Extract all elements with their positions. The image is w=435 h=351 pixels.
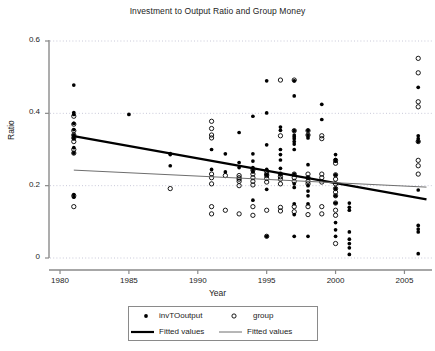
x-tick-label-4: 2000 xyxy=(316,276,356,285)
fitted-line-group xyxy=(74,170,427,187)
data-point-invtooutput xyxy=(251,170,255,174)
data-point-invtooutput xyxy=(292,186,296,190)
data-point-invtooutput xyxy=(72,146,76,150)
data-point-invtooutput xyxy=(224,170,228,174)
data-point-invtooutput xyxy=(347,230,351,234)
data-point-group xyxy=(168,186,172,190)
data-point-invtooutput xyxy=(292,182,296,186)
data-point-invtooutput xyxy=(279,166,283,170)
fitted-line-invtooutput xyxy=(74,136,427,199)
data-point-group xyxy=(209,204,213,208)
data-point-invtooutput xyxy=(306,163,310,167)
data-point-invtooutput xyxy=(279,158,283,162)
gridlines xyxy=(50,41,432,258)
data-point-invtooutput xyxy=(72,83,76,87)
legend-row-markers: invTOoutput group xyxy=(129,308,319,324)
data-point-invtooutput xyxy=(251,152,255,156)
data-point-invtooutput xyxy=(334,194,338,198)
legend-label-group: group xyxy=(253,308,273,324)
data-point-group xyxy=(278,78,282,82)
data-point-group xyxy=(333,177,337,181)
data-point-invtooutput xyxy=(251,159,255,163)
data-point-invtooutput xyxy=(334,159,338,163)
legend-label-invtooutput: invTOoutput xyxy=(159,308,202,324)
legend-thick-line-icon xyxy=(129,324,155,340)
series-points-group xyxy=(72,56,421,245)
data-point-invtooutput xyxy=(168,164,172,168)
data-point-invtooutput xyxy=(292,142,296,146)
data-point-invtooutput xyxy=(347,246,351,250)
data-point-group xyxy=(209,119,213,123)
data-point-group xyxy=(209,136,213,140)
data-point-group xyxy=(333,241,337,245)
data-point-invtooutput xyxy=(334,187,338,191)
data-point-invtooutput xyxy=(306,234,310,238)
y-tick-label-2: 0.4 xyxy=(14,107,40,116)
legend-row-fits: Fitted values Fitted values xyxy=(129,324,319,340)
data-point-invtooutput xyxy=(334,173,338,177)
data-point-invtooutput xyxy=(334,153,338,157)
x-tick-label-0: 1980 xyxy=(40,276,80,285)
legend-label-fitted-values-group: Fitted values xyxy=(247,324,292,340)
data-point-invtooutput xyxy=(72,113,76,117)
data-point-invtooutput xyxy=(416,85,420,89)
y-tick-label-0: 0 xyxy=(14,252,40,261)
legend-filled-circle-icon xyxy=(133,308,159,324)
data-point-invtooutput xyxy=(251,198,255,202)
data-point-group xyxy=(416,172,420,176)
data-point-invtooutput xyxy=(347,237,351,241)
data-point-group xyxy=(416,71,420,75)
data-point-invtooutput xyxy=(265,173,269,177)
data-point-invtooutput xyxy=(347,253,351,257)
data-point-group xyxy=(237,212,241,216)
x-tick-label-3: 1995 xyxy=(247,276,287,285)
data-point-invtooutput xyxy=(292,94,296,98)
data-point-invtooutput xyxy=(279,153,283,157)
data-point-invtooutput xyxy=(265,187,269,191)
data-point-group xyxy=(333,208,337,212)
data-point-invtooutput xyxy=(306,128,310,132)
data-point-invtooutput xyxy=(416,224,420,228)
data-point-group xyxy=(416,164,420,168)
fitted-value-lines xyxy=(74,136,427,199)
data-point-invtooutput xyxy=(347,201,351,205)
data-point-invtooutput xyxy=(279,125,283,129)
data-point-invtooutput xyxy=(306,202,310,206)
data-point-group xyxy=(320,212,324,216)
data-point-invtooutput xyxy=(72,195,76,199)
axis-lines xyxy=(49,40,432,270)
data-point-group xyxy=(416,158,420,162)
data-point-group xyxy=(209,126,213,130)
data-point-group xyxy=(209,212,213,216)
data-point-invtooutput xyxy=(279,128,283,132)
data-point-invtooutput xyxy=(306,194,310,198)
data-point-group xyxy=(306,212,310,216)
data-point-invtooutput xyxy=(224,152,228,156)
data-point-invtooutput xyxy=(265,234,269,238)
data-point-invtooutput xyxy=(347,208,351,212)
data-point-invtooutput xyxy=(292,213,296,217)
data-point-invtooutput xyxy=(265,79,269,83)
data-point-invtooutput xyxy=(72,151,76,155)
data-point-invtooutput xyxy=(416,140,420,144)
x-tick-label-2: 1990 xyxy=(178,276,218,285)
data-point-invtooutput xyxy=(292,79,296,83)
data-point-invtooutput xyxy=(292,129,296,133)
data-point-invtooutput xyxy=(334,221,338,225)
data-point-invtooutput xyxy=(210,168,214,172)
data-point-invtooutput xyxy=(292,148,296,152)
data-point-invtooutput xyxy=(334,201,338,205)
data-point-invtooutput xyxy=(416,230,420,234)
data-point-group xyxy=(72,204,76,208)
data-point-group xyxy=(320,137,324,141)
legend-label-fitted-values-inv: Fitted values xyxy=(159,324,204,340)
data-point-group xyxy=(320,204,324,208)
data-point-invtooutput xyxy=(237,161,241,165)
data-point-invtooutput xyxy=(292,202,296,206)
data-point-invtooutput xyxy=(237,131,241,135)
y-axis-label: Ratio xyxy=(6,120,16,140)
data-point-invtooutput xyxy=(127,113,131,117)
data-point-invtooutput xyxy=(210,148,214,152)
data-point-invtooutput xyxy=(416,188,420,192)
data-point-invtooutput xyxy=(416,252,420,256)
